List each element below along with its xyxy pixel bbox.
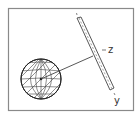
diagram-canvas: z y xyxy=(0,0,138,118)
axis-label-z: z xyxy=(108,44,113,55)
axis-label-y: y xyxy=(114,95,120,106)
